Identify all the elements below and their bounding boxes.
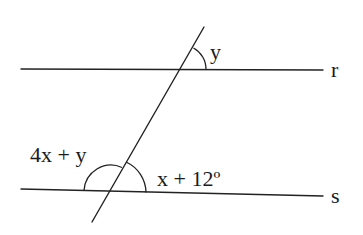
line-r <box>21 69 323 70</box>
angle-label-x-plus-12: x + 12º <box>157 166 220 191</box>
angle-label-4x-plus-y: 4x + y <box>30 142 86 167</box>
line-label-s: s <box>331 183 340 208</box>
angle-label-y: y <box>210 39 221 64</box>
angle-arc-y <box>194 48 207 70</box>
diagram-svg: y r 4x + y x + 12º s <box>0 0 363 235</box>
angle-arc-x-plus-12 <box>126 162 146 193</box>
diagram-canvas: y r 4x + y x + 12º s <box>0 0 363 235</box>
angle-arc-4x-plus-y <box>84 165 122 190</box>
line-label-r: r <box>331 57 339 82</box>
